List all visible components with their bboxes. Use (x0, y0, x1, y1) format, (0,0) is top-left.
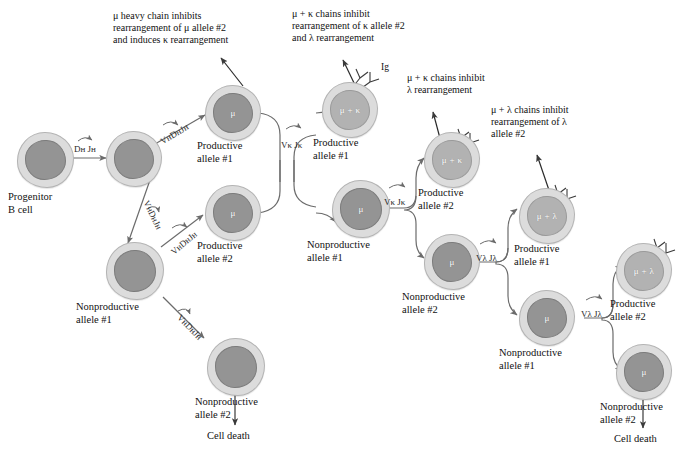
cell-productive-l2: μ + λ (616, 243, 670, 297)
segment-label-dh-jh: Dʜ Jʜ (74, 144, 96, 154)
cell-productive-k2: μ + κ (424, 132, 478, 186)
curl-vl-jl-1 (480, 241, 496, 244)
nucleus-label: μ (544, 313, 549, 323)
cell-dj-rearranged (106, 131, 160, 185)
pointer-annot-mu-heavy (221, 58, 243, 86)
nucleus-label: μ (230, 108, 235, 118)
nucleus-label: μ + λ (634, 266, 654, 276)
curl-vhdhjh-3 (172, 225, 187, 228)
cell-nonproductive-k1: μ (332, 180, 388, 236)
nucleus-label: μ (449, 257, 454, 267)
nucleus (25, 140, 66, 180)
ig-label: Ig (381, 62, 389, 72)
figure-canvas: μ heavy chain inhibits rearrangement of … (0, 0, 696, 464)
segment-label-vl-jl-2: Vλ Jλ (581, 309, 602, 319)
cell-nonproductive-k2: μ (424, 234, 478, 288)
nucleus-label: μ (358, 204, 363, 214)
caption-productive-h1: Productive allele #1 (197, 140, 243, 165)
annotation-mu-kappa-lambda: μ + κ chains inhibit λ rearrangement (407, 72, 567, 96)
caption-nonproductive-h2: Nonproductive allele #2 (195, 396, 258, 421)
cell-nonproductive-l1: μ (519, 290, 573, 344)
nucleus (114, 139, 154, 179)
caption-nonproductive-k2: Nonproductive allele #2 (402, 291, 465, 316)
caption-nonproductive-l2: Nonproductive allele #2 (600, 401, 663, 426)
arrow-to-nonproductive-k2 (416, 240, 424, 258)
nucleus: μ + κ (330, 90, 370, 130)
bracket-in-top-kappa (258, 113, 280, 182)
cell-productive-k1: μ + κ (322, 82, 376, 136)
cell-nonproductive-h2 (207, 338, 263, 394)
cell-productive-h2: μ (205, 185, 259, 239)
nucleus-label: μ + κ (340, 105, 360, 115)
nucleus: μ + λ (624, 251, 664, 291)
annotation-mu-lambda-chains: μ + λ chains inhibit rearrangement of λ … (491, 104, 641, 141)
curl-vl-jl-2 (586, 297, 602, 300)
cell-productive-h1: μ (205, 85, 259, 139)
arrow-to-nonproductive-l1 (508, 296, 517, 315)
nucleus (114, 250, 156, 292)
cell-productive-l1: μ + λ (519, 188, 573, 242)
nucleus: μ (432, 242, 472, 282)
bracket-in-bottom-kappa (258, 160, 280, 213)
caption-productive-h2: Productive allele #2 (197, 240, 243, 265)
caption-productive-l2: Productive allele #2 (610, 298, 656, 323)
curl-vk-jk-2 (389, 185, 405, 188)
curl-vk-jk-1 (286, 126, 301, 129)
nucleus-label: μ + λ (537, 211, 557, 221)
annotation-mu-kappa-chains: μ + κ chains inhibit rearrangement of κ … (292, 8, 452, 45)
nucleus: μ (340, 188, 382, 230)
nucleus-label: μ (641, 367, 646, 377)
nucleus: μ (624, 352, 664, 392)
caption-productive-k2: Productive allele #2 (418, 187, 464, 212)
nucleus: μ (527, 298, 567, 338)
segment-label-vl-jl-1: Vλ Jλ (476, 253, 497, 263)
cell-nonproductive-l2: μ (616, 344, 670, 398)
caption-productive-k1: Productive allele #1 (313, 137, 359, 162)
caption-productive-l1: Productive allele #1 (514, 243, 560, 268)
caption-nonproductive-l1: Nonproductive allele #1 (499, 347, 562, 372)
caption-nonproductive-h1: Nonproductive allele #1 (76, 301, 139, 326)
caption-nonproductive-k1: Nonproductive allele #1 (307, 239, 370, 264)
nucleus (215, 346, 257, 388)
arrow-to-productive-k2 (416, 158, 424, 178)
nucleus: μ + λ (527, 196, 567, 236)
outcome-cell-death-right: Cell death (614, 433, 657, 444)
curl-vhdhjh-1 (163, 122, 178, 125)
annotation-mu-heavy-chain: μ heavy chain inhibits rearrangement of … (113, 10, 298, 47)
nucleus: μ (213, 93, 253, 133)
outcome-cell-death-left: Cell death (207, 430, 250, 441)
nucleus: μ (213, 193, 253, 233)
segment-label-vk-jk-1: Vκ Jκ (281, 140, 302, 150)
nucleus: μ + κ (432, 140, 472, 180)
cell-nonproductive-h1 (106, 242, 162, 298)
cell-progenitor (17, 132, 72, 186)
bracket-out-bottom-kappa (294, 160, 316, 207)
arrow-to-productive-l1 (508, 209, 517, 228)
caption-progenitor: Progenitor B cell (8, 191, 52, 216)
nucleus-label: μ (230, 208, 235, 218)
segment-label-vk-jk-2: Vκ Jκ (384, 197, 405, 207)
bracket-lambda1-down (496, 248, 508, 296)
nucleus-label: μ + κ (442, 155, 462, 165)
curl-dh-jh (78, 138, 92, 141)
